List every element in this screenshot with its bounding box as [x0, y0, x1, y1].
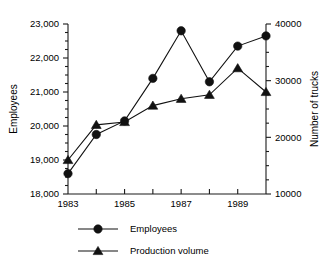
- data-point-circle: [149, 74, 157, 82]
- left-axis-title: Employees: [8, 84, 19, 133]
- x-axis-tick-label: 1985: [114, 198, 135, 209]
- legend-label: Production volume: [130, 245, 209, 256]
- right-axis-title: Number of trucks: [309, 71, 320, 147]
- data-point-circle: [262, 32, 270, 40]
- left-axis: 18,00019,00020,00021,00022,00023,000 Emp…: [8, 18, 68, 199]
- series-line-2: [68, 68, 266, 160]
- data-point-circle: [92, 130, 100, 138]
- right-tick-label: 20000: [275, 132, 301, 143]
- right-axis: 10000200003000040000 Number of trucks: [266, 18, 320, 199]
- right-axis-tick-labels: 10000200003000040000: [275, 18, 301, 199]
- data-point-circle: [234, 42, 242, 50]
- data-point-circle: [64, 169, 72, 177]
- data-point-triangle: [233, 64, 243, 72]
- x-axis-ticks: [68, 189, 266, 194]
- right-tick-label: 10000: [275, 188, 301, 199]
- chart-legend: EmployeesProduction volume: [78, 223, 209, 256]
- right-tick-label: 30000: [275, 75, 301, 86]
- x-axis-tick-labels: 1983198519871989: [57, 198, 248, 209]
- left-tick-label: 18,000: [30, 188, 59, 199]
- legend-label: Employees: [130, 223, 177, 234]
- legend-marker-circle: [94, 225, 102, 233]
- x-axis-tick-label: 1987: [171, 198, 192, 209]
- x-axis: 1983198519871989: [57, 189, 266, 209]
- left-tick-label: 20,000: [30, 120, 59, 131]
- legend-entry-1: Employees: [78, 223, 177, 234]
- series-layer: [63, 27, 271, 178]
- data-point-circle: [177, 27, 185, 35]
- data-point-circle: [205, 78, 213, 86]
- series-2: [63, 64, 271, 164]
- x-axis-tick-label: 1989: [227, 198, 248, 209]
- left-tick-label: 23,000: [30, 18, 59, 29]
- right-tick-label: 40000: [275, 18, 301, 29]
- left-tick-label: 22,000: [30, 52, 59, 63]
- left-axis-tick-labels: 18,00019,00020,00021,00022,00023,000: [30, 18, 59, 199]
- left-tick-label: 19,000: [30, 154, 59, 165]
- line-chart-figure: 18,00019,00020,00021,00022,00023,000 Emp…: [0, 0, 331, 268]
- left-tick-label: 21,000: [30, 86, 59, 97]
- chart-container: 18,00019,00020,00021,00022,00023,000 Emp…: [0, 0, 331, 268]
- x-axis-tick-label: 1983: [57, 198, 78, 209]
- legend-entry-2: Production volume: [78, 245, 209, 256]
